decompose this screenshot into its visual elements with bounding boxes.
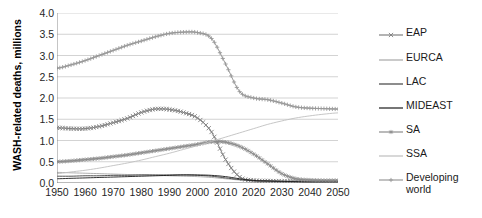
legend-item-eurca[interactable]: EURCA xyxy=(378,51,482,64)
x-axis-tick: 2020 xyxy=(242,186,265,198)
legend-label: MIDEAST xyxy=(404,99,453,111)
legend-marker-icon xyxy=(378,52,404,64)
legend-item-lac[interactable]: LAC xyxy=(378,75,482,88)
y-axis-tick: 1.5 xyxy=(30,113,54,125)
legend-item-sa[interactable]: SA xyxy=(378,123,482,136)
chart-legend: EAPEURCALACMIDEASTSASSADeveloping world xyxy=(378,13,482,209)
y-axis-tick: 4.0 xyxy=(30,7,54,19)
plot-area xyxy=(57,13,338,183)
x-axis-tick: 2010 xyxy=(214,186,237,198)
series-developing-world xyxy=(57,30,338,111)
y-axis-tick: 3.5 xyxy=(30,28,54,40)
legend-label: SSA xyxy=(404,147,427,159)
x-axis-tick: 2030 xyxy=(270,186,293,198)
legend-marker-icon xyxy=(378,148,404,160)
x-axis-tick: 1960 xyxy=(73,186,96,198)
legend-marker-icon xyxy=(378,76,404,88)
legend-marker-icon xyxy=(378,100,404,112)
chart-plot-svg xyxy=(57,13,338,183)
x-axis-tick: 1980 xyxy=(130,186,153,198)
legend-marker-icon xyxy=(378,124,404,136)
x-axis-tick: 1950 xyxy=(45,186,68,198)
chart-container: WASH-related deaths, millions 0.00.51.01… xyxy=(0,0,482,218)
x-axis-tick: 2040 xyxy=(298,186,321,198)
y-axis-tick: 3.0 xyxy=(30,50,54,62)
legend-label: SA xyxy=(404,123,420,135)
y-axis-tick: 2.0 xyxy=(30,92,54,104)
legend-label: EAP xyxy=(404,26,427,38)
y-axis-title-text: WASH-related deaths, millions xyxy=(11,19,23,171)
x-axis-tick: 2000 xyxy=(186,186,209,198)
y-axis-tick: 1.0 xyxy=(30,135,54,147)
legend-item-eap[interactable]: EAP xyxy=(378,26,482,39)
legend-marker-icon xyxy=(378,27,404,39)
legend-item-mideast[interactable]: MIDEAST xyxy=(378,99,482,112)
x-axis-tick: 1990 xyxy=(158,186,181,198)
x-axis-tick: 1970 xyxy=(102,186,125,198)
legend-label: EURCA xyxy=(404,51,443,63)
y-axis-tick: 0.5 xyxy=(30,156,54,168)
legend-item-ssa[interactable]: SSA xyxy=(378,147,482,160)
x-axis-tick: 2050 xyxy=(326,186,349,198)
legend-label: LAC xyxy=(404,75,426,87)
legend-item-developing-world[interactable]: Developing world xyxy=(378,171,482,195)
legend-label: Developing world xyxy=(404,171,459,195)
legend-marker-icon xyxy=(378,172,404,184)
y-axis-tick: 2.5 xyxy=(30,71,54,83)
